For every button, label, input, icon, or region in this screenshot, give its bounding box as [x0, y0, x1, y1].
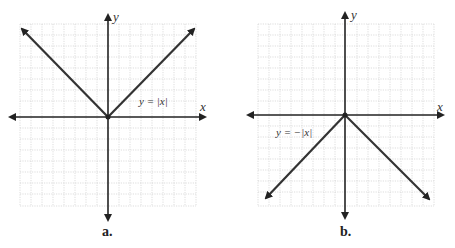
- graph-a-canvas: y x y = |x|: [0, 0, 227, 248]
- graph-panel-a: y x y = |x| a.: [0, 0, 227, 248]
- equation-label-a: y = |x|: [138, 95, 168, 107]
- y-axis-label-a: y: [111, 9, 119, 24]
- graph-b-canvas: y x y = −|x|: [227, 0, 455, 248]
- equation-label-b: y = −|x|: [275, 126, 312, 138]
- x-axis-label-a: x: [199, 99, 206, 114]
- vertex-point-b: [343, 113, 348, 118]
- vertex-point-a: [106, 115, 111, 120]
- panel-label-a: a.: [102, 224, 113, 240]
- x-axis-label-b: x: [436, 99, 443, 114]
- graph-panel-b: y x y = −|x| b.: [227, 0, 454, 248]
- panel-label-b: b.: [340, 224, 351, 240]
- y-axis-label-b: y: [349, 7, 357, 22]
